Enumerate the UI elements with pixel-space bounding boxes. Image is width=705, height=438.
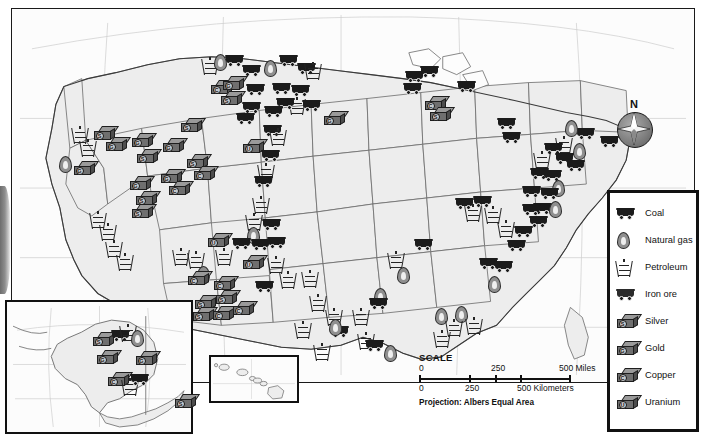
coal-cart-icon [617, 208, 641, 220]
scale-bar-graphic [419, 375, 594, 382]
legend-item-natural_gas[interactable]: Natural gas [610, 227, 696, 254]
scale-mi-250: 250 [491, 363, 505, 373]
alaska-basemap [7, 302, 191, 432]
page-edge-artifact [0, 186, 11, 294]
legend-item-label: Uranium [645, 397, 680, 408]
silver-ingot-icon: S [617, 314, 638, 329]
scale-title: SCALE [419, 352, 594, 363]
legend-item-coal[interactable]: Coal [610, 200, 696, 227]
legend-item-petroleum[interactable]: Petroleum [610, 254, 696, 281]
scale-km-500: 500 Kilometers [517, 383, 574, 393]
legend-item-label: Silver [645, 316, 668, 327]
legend-item-uranium[interactable]: UUranium [610, 389, 696, 416]
legend-item-iron_ore[interactable]: Iron ore [610, 281, 696, 308]
cutoff-text-sliver [0, 0, 705, 7]
legend-item-label: Natural gas [645, 235, 693, 246]
gold-ingot-icon: G [617, 341, 641, 356]
alaska-inset[interactable]: SGGCS [5, 300, 193, 434]
uranium-ingot-icon: U [617, 395, 638, 410]
scale-km-250: 250 [465, 383, 479, 393]
legend-item-label: Iron ore [645, 289, 677, 300]
scale-km-labels: 0 250 500 Kilometers [419, 383, 594, 394]
scale-km-0: 0 [419, 383, 424, 393]
scale-mi-500: 500 Miles [559, 363, 595, 373]
gas-flame-icon [617, 232, 630, 249]
hawaii-basemap [211, 357, 297, 401]
copper-ingot-icon: C [617, 368, 638, 383]
iron-ore-cart-icon [617, 289, 634, 301]
legend-item-silver[interactable]: SSilver [610, 308, 696, 335]
copper-ingot-icon: C [617, 368, 641, 383]
oil-derrick-icon [617, 259, 631, 277]
gold-ingot-icon: G [617, 341, 638, 356]
compass-star-icon [617, 112, 651, 146]
legend-item-copper[interactable]: CCopper [610, 362, 696, 389]
gas-flame-icon [617, 232, 641, 249]
hawaii-inset[interactable] [209, 355, 299, 403]
silver-ingot-icon: S [617, 314, 641, 329]
scale-mi-0: 0 [419, 363, 424, 373]
scale-bar: SCALE 0 250 500 Miles 0 250 500 Kilomete… [419, 352, 594, 407]
legend-item-gold[interactable]: GGold [610, 335, 696, 362]
legend-item-label: Coal [645, 208, 664, 219]
legend-item-label: Gold [645, 343, 665, 354]
compass-north-label: N [630, 98, 638, 110]
iron-ore-cart-icon [617, 289, 641, 301]
scale-miles-labels: 0 250 500 Miles [419, 363, 594, 374]
compass-rose: N [612, 99, 656, 151]
legend-item-label: Petroleum [645, 262, 687, 273]
projection-note: Projection: Albers Equal Area [419, 398, 594, 407]
legend-item-label: Copper [645, 370, 676, 381]
coal-cart-icon [617, 208, 634, 220]
map-legend[interactable]: CoalNatural gasPetroleumIron oreSSilverG… [607, 190, 699, 432]
oil-derrick-icon [617, 259, 641, 277]
uranium-ingot-icon: U [617, 395, 641, 410]
